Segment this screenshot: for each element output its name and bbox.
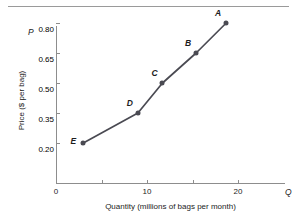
plot-area: P Q Price ($ per bag) Quantity (millions…: [0, 0, 297, 220]
data-point-label: A: [215, 8, 221, 18]
data-point: [224, 21, 229, 26]
data-point: [194, 51, 199, 56]
data-point-label: C: [151, 68, 157, 78]
curve-svg: [0, 0, 297, 220]
data-point-label: D: [127, 98, 133, 108]
data-point: [160, 81, 165, 86]
data-point: [135, 111, 140, 116]
data-point: [81, 141, 86, 146]
supply-curve-line: [83, 23, 226, 143]
data-point-label: B: [185, 38, 191, 48]
data-point-label: E: [70, 136, 76, 146]
figure-panel: P Q Price ($ per bag) Quantity (millions…: [0, 0, 297, 220]
